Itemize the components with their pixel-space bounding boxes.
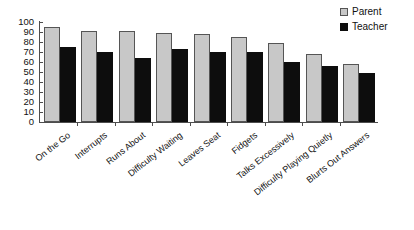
- legend-label: Parent: [352, 7, 381, 17]
- bar-group: [268, 22, 300, 122]
- y-axis-tick-label: 30: [23, 87, 34, 97]
- x-axis-tick: [340, 122, 341, 126]
- x-axis-tick-label: Interrupts: [73, 130, 109, 161]
- legend-label: Teacher: [352, 22, 388, 32]
- y-axis-tick-label: 20: [23, 97, 34, 107]
- bar-group: [119, 22, 151, 122]
- bar-group: [156, 22, 188, 122]
- legend-swatch-teacher: [340, 23, 348, 31]
- chart-legend: ParentTeacher: [340, 5, 406, 35]
- y-axis-tick-label: 90: [23, 27, 34, 37]
- bar-parent: [343, 64, 359, 122]
- x-axis-tick-label: Fidgets: [230, 130, 259, 156]
- y-axis-tick-label: 70: [23, 47, 34, 57]
- bar-parent: [44, 27, 60, 122]
- y-axis-tick-label: 0: [29, 117, 34, 127]
- y-axis-tick-label: 40: [23, 77, 34, 87]
- bar-teacher: [210, 52, 226, 122]
- bar-teacher: [284, 62, 300, 122]
- y-axis-tick-label: 10: [23, 107, 34, 117]
- x-axis-tick: [227, 122, 228, 126]
- bar-group: [44, 22, 76, 122]
- bar-teacher: [172, 49, 188, 122]
- bar-group: [343, 22, 375, 122]
- bar-teacher: [322, 66, 338, 122]
- bar-parent: [194, 34, 210, 122]
- bar-teacher: [97, 52, 113, 122]
- bar-group: [81, 22, 113, 122]
- bar-parent: [156, 33, 172, 122]
- x-axis-tick: [265, 122, 266, 126]
- y-axis-tick-label: 80: [23, 37, 34, 47]
- bar-parent: [268, 43, 284, 122]
- y-axis-tick-label: 100: [18, 17, 34, 27]
- x-axis-tick-label: Blurts Out Answers: [305, 130, 371, 185]
- legend-item: Parent: [340, 5, 406, 19]
- bar-parent: [231, 37, 247, 122]
- y-axis-tick-label: 60: [23, 57, 34, 67]
- y-axis-tick-labels: 0102030405060708090100: [0, 0, 40, 145]
- legend-swatch-parent: [340, 8, 348, 16]
- bar-teacher: [247, 52, 263, 122]
- plot-area: [40, 22, 377, 122]
- bar-parent: [119, 31, 135, 122]
- x-axis-tick-label: Difficulty Playing Quietly: [252, 130, 334, 197]
- x-axis-line: [39, 122, 378, 123]
- y-axis-tick-label: 50: [23, 67, 34, 77]
- bar-teacher: [135, 58, 151, 122]
- bar-chart: 0102030405060708090100 On the GoInterrup…: [0, 0, 414, 230]
- x-axis-tick: [115, 122, 116, 126]
- x-axis-tick: [152, 122, 153, 126]
- x-axis-tick: [302, 122, 303, 126]
- bar-parent: [306, 54, 322, 122]
- bar-teacher: [359, 73, 375, 122]
- x-axis-tick-label: Runs About: [104, 130, 147, 167]
- x-axis-tick-label: Difficulty Waiting: [126, 130, 184, 179]
- x-axis-tick: [77, 122, 78, 126]
- bar-parent: [81, 31, 97, 122]
- bar-teacher: [60, 47, 76, 122]
- bar-group: [194, 22, 226, 122]
- legend-item: Teacher: [340, 20, 406, 34]
- x-axis-tick: [190, 122, 191, 126]
- x-axis-tick-label: Leaves Seat: [176, 130, 222, 169]
- bar-group: [231, 22, 263, 122]
- bar-group: [306, 22, 338, 122]
- x-axis-tick-label: Talks Excessively: [235, 130, 296, 181]
